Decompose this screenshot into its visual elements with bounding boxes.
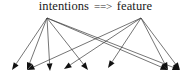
graph-edge bbox=[47, 18, 50, 64]
arrowhead bbox=[64, 62, 72, 69]
graph-edge-layer bbox=[0, 0, 191, 82]
graph-edge bbox=[16, 18, 47, 64]
graph-edge bbox=[141, 18, 165, 63]
arrowhead bbox=[81, 62, 88, 70]
arrowhead bbox=[12, 62, 19, 70]
arrowhead bbox=[108, 60, 115, 68]
graph-edge bbox=[70, 18, 141, 65]
arrowhead bbox=[47, 63, 53, 71]
figure-root: intentions ==> feature bbox=[0, 0, 191, 82]
graph-edge bbox=[30, 18, 47, 63]
